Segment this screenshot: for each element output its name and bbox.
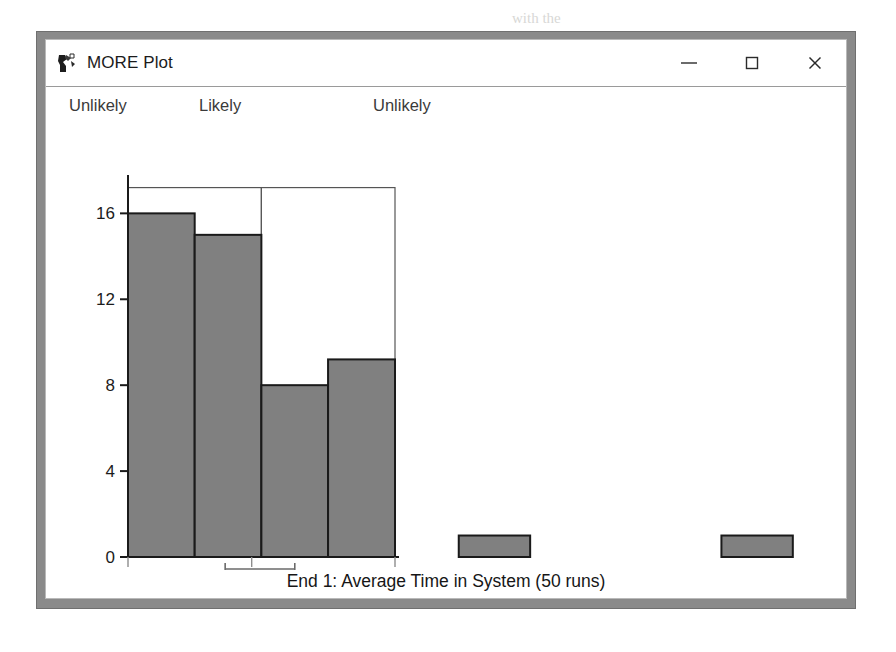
close-icon bbox=[806, 54, 824, 72]
y-tick-label-2: 8 bbox=[106, 376, 115, 395]
close-button[interactable] bbox=[783, 40, 846, 86]
outlier-bar-1 bbox=[459, 536, 530, 557]
outlier-bars bbox=[459, 536, 793, 557]
outlier-bar-2 bbox=[721, 536, 792, 557]
window-title: MORE Plot bbox=[87, 53, 173, 73]
confidence-interval-bracket bbox=[225, 563, 295, 570]
histogram-bar-3 bbox=[328, 359, 395, 557]
maximize-icon bbox=[743, 54, 761, 72]
minimize-button[interactable] bbox=[657, 40, 720, 86]
title-bar: MORE Plot bbox=[46, 40, 846, 87]
more-plot-chart[interactable]: 0481216 11.0315.8821.50 bbox=[46, 87, 846, 570]
y-axis-ticks: 0481216 bbox=[96, 204, 128, 567]
y-tick-label-1: 4 bbox=[106, 462, 115, 481]
chart-caption: End 1: Average Time in System (50 runs) bbox=[46, 571, 846, 592]
y-tick-label-4: 16 bbox=[96, 204, 115, 223]
x-axis-ticks: 11.0315.8821.50 bbox=[106, 557, 417, 570]
histogram-bar-0 bbox=[128, 213, 195, 557]
more-plot-window: MORE Plot bbox=[36, 31, 856, 609]
maximize-button[interactable] bbox=[720, 40, 783, 86]
histogram-bar-1 bbox=[195, 235, 262, 557]
histogram-bar-2 bbox=[261, 385, 328, 557]
y-tick-label-3: 12 bbox=[96, 290, 115, 309]
plot-area: Unlikely Likely Unlikely 0481216 11.0315… bbox=[46, 87, 846, 598]
window-controls bbox=[657, 40, 846, 86]
y-tick-label-0: 0 bbox=[106, 548, 115, 567]
bleed-text-0: with the bbox=[512, 10, 561, 27]
window-inner-surface: MORE Plot bbox=[45, 39, 847, 599]
more-plot-app-icon bbox=[57, 52, 79, 74]
minimize-icon bbox=[678, 57, 700, 69]
